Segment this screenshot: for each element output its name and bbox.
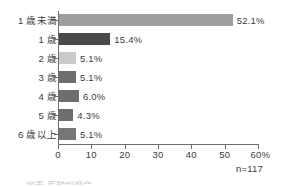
bar: [59, 14, 233, 26]
bar-chart-figure: 1 歳未満52.1%1 歳15.4%2 歳5.1%3 歳5.1%4 歳6.0%5…: [0, 0, 285, 187]
bar: [59, 90, 79, 102]
bar: [59, 52, 76, 64]
y-tick-mark: [54, 96, 58, 97]
bar-row: 3 歳5.1%: [0, 68, 285, 87]
y-tick-mark: [54, 58, 58, 59]
sample-size-note: n=117: [236, 163, 263, 174]
bar-row: 2 歳5.1%: [0, 49, 285, 68]
x-tick-label: 20: [119, 149, 130, 160]
bar-row: 1 歳未満52.1%: [0, 11, 285, 30]
bar-value-label: 15.4%: [114, 30, 142, 49]
y-tick-mark: [54, 77, 58, 78]
y-tick-mark: [54, 134, 58, 135]
bar-row: 4 歳6.0%: [0, 87, 285, 106]
bar-value-label: 5.1%: [80, 68, 102, 87]
x-tick-label: 0: [55, 149, 60, 160]
x-tick-label: 40: [186, 149, 197, 160]
x-axis-ticks: 0102030405060%: [0, 144, 285, 164]
bar-row: 1 歳15.4%: [0, 30, 285, 49]
bar-rows: 1 歳未満52.1%1 歳15.4%2 歳5.1%3 歳5.1%4 歳6.0%5…: [0, 11, 285, 144]
bar-row: 5 歳4.3%: [0, 106, 285, 125]
bar-row: 6 歳以上5.1%: [0, 125, 285, 144]
y-tick-mark: [54, 39, 58, 40]
bar-value-label: 5.1%: [80, 125, 102, 144]
bar: [59, 71, 76, 83]
bar-value-label: 6.0%: [83, 87, 105, 106]
y-tick-mark: [54, 115, 58, 116]
category-label: 1 歳未満: [18, 11, 57, 30]
category-label: 6 歳以上: [18, 125, 57, 144]
bar: [59, 33, 110, 45]
bar: [59, 128, 76, 140]
plot-area: 1 歳未満52.1%1 歳15.4%2 歳5.1%3 歳5.1%4 歳6.0%5…: [0, 0, 285, 187]
x-tick-label: 30: [153, 149, 164, 160]
bar-value-label: 4.3%: [77, 106, 99, 125]
y-tick-mark: [54, 20, 58, 21]
bar-value-label: 52.1%: [237, 11, 265, 30]
x-tick-label: 10: [86, 149, 97, 160]
bar-value-label: 5.1%: [80, 49, 102, 68]
cut-off-caption: 図表 年齢別割合: [26, 181, 186, 185]
bar: [59, 109, 73, 121]
x-tick-label: 50: [219, 149, 230, 160]
x-tick-label: 60%: [251, 149, 271, 160]
